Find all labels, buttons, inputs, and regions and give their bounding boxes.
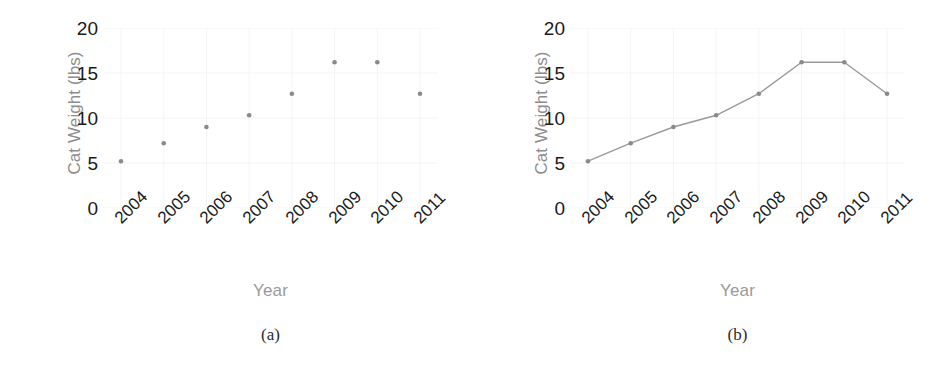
figure-two-panel: Cat Weight (lbs) 05101520 20042005200620… [0,0,935,365]
data-point-2010 [842,60,847,65]
y-tick-a-15: 15 [58,64,98,83]
y-tick-b-5: 5 [525,154,565,173]
x-tick-labels-a: 20042005200620072008200920102011 [103,208,438,278]
panel-caption-a: (a) [103,325,438,345]
data-point-2005 [628,141,633,146]
plot-area-a [103,28,438,208]
data-point-2010 [375,60,380,65]
x-axis-title-a: Year [103,281,438,301]
data-point-2011 [885,91,890,96]
y-tick-a-0: 0 [58,199,98,218]
panel-b: Cat Weight (lbs) 05101520 20042005200620… [467,0,935,365]
data-point-2007 [247,113,252,118]
y-tick-a-20: 20 [58,19,98,38]
data-point-2006 [671,125,676,130]
y-tick-b-0: 0 [525,199,565,218]
data-point-2009 [332,60,337,65]
data-point-2004 [586,159,591,164]
data-point-2008 [757,91,762,96]
line-svg-b [570,28,905,208]
y-tick-a-10: 10 [58,109,98,128]
data-point-2006 [204,125,209,130]
plot-area-b [570,28,905,208]
data-point-2007 [714,113,719,118]
data-point-2004 [119,159,124,164]
y-tick-labels-a: 05101520 [52,28,98,208]
data-point-2008 [290,91,295,96]
x-tick-labels-b: 20042005200620072008200920102011 [570,208,905,278]
y-tick-labels-b: 05101520 [519,28,565,208]
data-point-2011 [418,91,423,96]
series-line [588,62,887,161]
y-tick-b-20: 20 [525,19,565,38]
x-axis-title-b: Year [570,281,905,301]
scatter-svg-a [103,28,438,208]
data-point-2005 [161,141,166,146]
y-tick-b-10: 10 [525,109,565,128]
data-point-2009 [799,60,804,65]
panel-a: Cat Weight (lbs) 05101520 20042005200620… [0,0,467,365]
y-tick-a-5: 5 [58,154,98,173]
panel-caption-b: (b) [570,325,905,345]
y-tick-b-15: 15 [525,64,565,83]
